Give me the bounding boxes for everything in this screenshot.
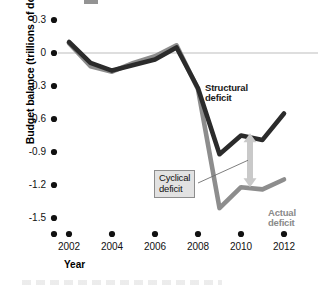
x-axis-title: Year — [64, 259, 85, 270]
cyclical-leader-line — [198, 160, 248, 183]
budget-balance-chart: Budget balance (trillions of dollars) 0.… — [0, 0, 327, 287]
cyclical-deficit-line2: deficit — [159, 184, 190, 195]
actual-deficit-annotation: Actual deficit — [268, 208, 296, 229]
x-axis-tick-dots — [66, 231, 287, 237]
x-tick-label-2008: 2008 — [176, 241, 220, 252]
y-tick-label-3: -0.6 — [8, 113, 46, 124]
x-tick-label-2006: 2006 — [133, 241, 177, 252]
x-tick-label-2010: 2010 — [219, 241, 263, 252]
structural-deficit-line2: deficit — [205, 93, 248, 103]
x-tick-label-2002: 2002 — [47, 241, 91, 252]
actual-deficit-line2: deficit — [268, 218, 296, 228]
y-tick-label-6: -1.5 — [8, 212, 46, 223]
cyclical-deficit-arrow — [244, 133, 257, 187]
y-tick-label-5: -1.2 — [8, 179, 46, 190]
x-tick-label-2012: 2012 — [262, 241, 306, 252]
cyclical-deficit-annotation: Cyclical deficit — [154, 170, 195, 198]
y-tick-label-0: 0.3 — [8, 14, 46, 25]
x-tick-label-2004: 2004 — [90, 241, 134, 252]
cropped-caption-fragment — [22, 280, 222, 285]
y-tick-label-1: 0 — [8, 47, 46, 58]
y-tick-label-2: -0.3 — [8, 80, 46, 91]
y-axis-tick-dots — [51, 17, 57, 237]
structural-deficit-annotation: Structural deficit — [205, 83, 248, 104]
y-tick-label-4: -0.9 — [8, 146, 46, 157]
